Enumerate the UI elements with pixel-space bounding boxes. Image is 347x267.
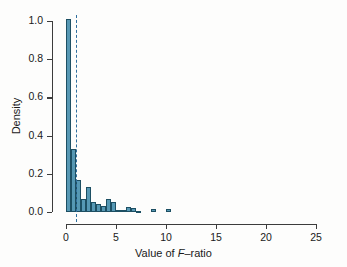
- x-axis-label-prefix: Value of: [135, 247, 178, 259]
- y-tick-label: 0.0: [10, 205, 43, 217]
- y-tick-mark: [47, 174, 52, 175]
- y-tick-mark: [47, 212, 52, 213]
- x-tick-label: 20: [251, 231, 281, 243]
- histogram-bar: [136, 211, 141, 213]
- x-tick-label: 0: [51, 231, 81, 243]
- histogram-bar: [166, 209, 171, 212]
- x-tick-mark: [66, 224, 67, 229]
- x-axis-line: [66, 224, 316, 225]
- x-tick-mark: [116, 224, 117, 229]
- y-tick-label: 0.8: [10, 52, 43, 64]
- y-axis-line: [52, 21, 53, 212]
- y-tick-label: 0.2: [10, 167, 43, 179]
- x-tick-mark: [166, 224, 167, 229]
- y-tick-mark: [47, 97, 52, 98]
- x-tick-mark: [316, 224, 317, 229]
- x-axis-label-suffix: –ratio: [184, 247, 212, 259]
- critical-value-dashed-line: [76, 15, 77, 222]
- histogram-bar: [151, 209, 156, 212]
- x-tick-label: 25: [301, 231, 331, 243]
- x-tick-label: 10: [151, 231, 181, 243]
- y-tick-mark: [47, 59, 52, 60]
- y-axis-label: Density: [10, 76, 22, 156]
- plot-area: 0510152025 0.00.20.40.60.81.0 Value of F…: [0, 0, 347, 267]
- y-tick-mark: [47, 21, 52, 22]
- histogram-figure: 0510152025 0.00.20.40.60.81.0 Value of F…: [0, 0, 347, 267]
- y-tick-mark: [47, 136, 52, 137]
- x-tick-mark: [266, 224, 267, 229]
- x-tick-label: 5: [101, 231, 131, 243]
- y-tick-label: 1.0: [10, 14, 43, 26]
- x-axis-label: Value of F–ratio: [0, 247, 347, 259]
- x-tick-label: 15: [201, 231, 231, 243]
- x-tick-mark: [216, 224, 217, 229]
